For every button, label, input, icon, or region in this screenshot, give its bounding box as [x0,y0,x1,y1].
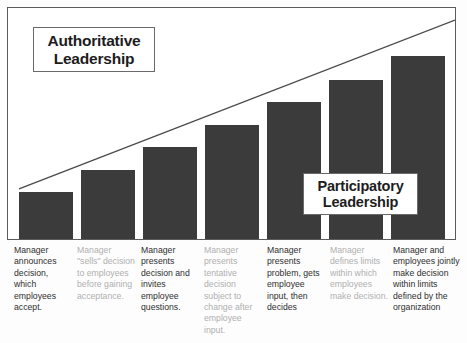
caption-4: Manager presents tentative decision subj… [204,245,262,336]
bar-2 [81,170,135,239]
callout-participatory-line2: Leadership [317,194,403,210]
callout-authoritative-leadership: Authoritative Leadership [33,27,155,72]
caption-1: Manager announces decision, which employ… [14,245,72,313]
callout-participatory-leadership: Participatory Leadership [303,173,418,215]
caption-7: Manager and employees jointly make decis… [393,245,463,313]
caption-6: Manager defines limits within which empl… [330,245,390,302]
caption-2: Manager "sells" decision to employees be… [77,245,137,302]
bar-5 [267,102,321,239]
chart-frame: Authoritative Leadership Participatory L… [7,7,456,240]
callout-authoritative-line2: Leadership [48,50,141,67]
callout-participatory-line1: Participatory [317,178,403,194]
bar-1 [19,192,73,239]
bar-6 [329,80,383,239]
leadership-continuum-chart: Authoritative Leadership Participatory L… [0,0,467,343]
caption-row: Manager announces decision, which employ… [0,245,467,343]
caption-3: Manager presents decision and invites em… [141,245,199,313]
bar-3 [143,147,197,239]
caption-5: Manager presents problem, gets employee … [267,245,325,313]
callout-authoritative-line1: Authoritative [48,32,141,49]
bar-4 [205,125,259,239]
